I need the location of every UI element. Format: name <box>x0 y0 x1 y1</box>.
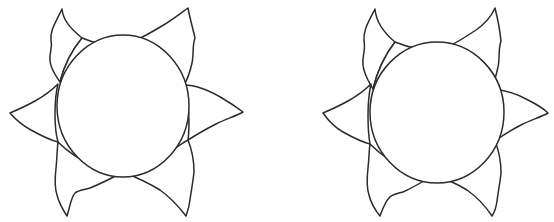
drawing-canvas <box>0 0 554 222</box>
sun-disc-left <box>57 35 189 177</box>
sun-disc-right <box>370 42 504 183</box>
sun-pair-illustration <box>0 0 554 222</box>
